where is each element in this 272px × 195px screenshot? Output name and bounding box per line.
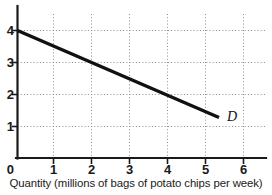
x-tick-label-1: 1 bbox=[46, 163, 62, 176]
demand-curve-line bbox=[18, 31, 220, 118]
y-tick-label-2: 2 bbox=[0, 88, 14, 101]
x-axis-title: Quantity (millions of bags of potato chi… bbox=[0, 177, 272, 189]
x-tick-label-4: 4 bbox=[160, 163, 176, 176]
x-tick-label-6: 6 bbox=[236, 163, 252, 176]
demand-curve-label: D bbox=[227, 110, 237, 124]
y-tick-label-3: 3 bbox=[0, 56, 14, 69]
y-tick-label-1: 1 bbox=[0, 120, 14, 133]
x-tick-label-2: 2 bbox=[84, 163, 100, 176]
x-tick-label-3: 3 bbox=[122, 163, 138, 176]
x-tick-label-5: 5 bbox=[198, 163, 214, 176]
demand-curve-chart: 4 3 2 1 0 1 2 3 4 5 6 D Quantity (millio… bbox=[0, 0, 272, 195]
y-tick-label-0: 0 bbox=[0, 163, 14, 176]
y-tick-label-4: 4 bbox=[0, 24, 14, 37]
